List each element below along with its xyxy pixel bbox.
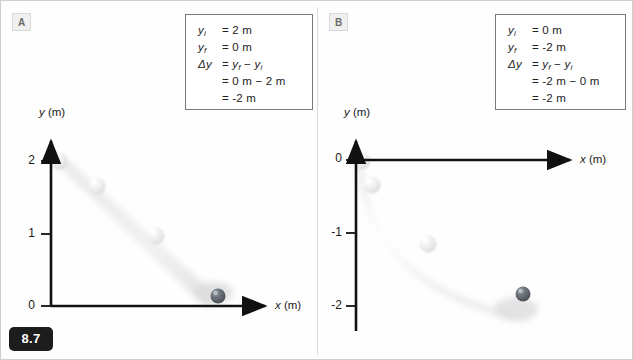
panel-b: B yi= 0 m yf= -2 m Δy= yf − yi = -2 m − … bbox=[318, 1, 633, 360]
y-axis-label-a: y (m) bbox=[39, 106, 65, 118]
plot-area-a: 2 1 0 y (m) x (m) bbox=[1, 1, 317, 360]
figure-container: A yi= 2 m yf= 0 m Δy= yf − yi = 0 m − 2 … bbox=[0, 0, 633, 360]
figure-number-badge: 8.7 bbox=[9, 327, 53, 351]
y-tick-label-0: 0 bbox=[19, 298, 35, 312]
motion-trail-b bbox=[356, 161, 538, 323]
y-tick-label-neg2: -2 bbox=[322, 298, 342, 312]
x-axis-label-b: x (m) bbox=[580, 153, 606, 165]
y-axis-label-b: y (m) bbox=[344, 106, 370, 118]
y-tick-label-neg1: -1 bbox=[322, 225, 342, 239]
y-tick-label-2: 2 bbox=[19, 153, 35, 167]
x-axis-label-a: x (m) bbox=[275, 299, 301, 311]
ball-ghost-3 bbox=[148, 228, 165, 245]
y-tick-label-1: 1 bbox=[19, 226, 35, 240]
ball-ghost-1 bbox=[51, 153, 68, 170]
y-tick-label-0: 0 bbox=[322, 151, 342, 165]
ball-ghost-3 bbox=[420, 236, 437, 253]
panel-a: A yi= 2 m yf= 0 m Δy= yf − yi = 0 m − 2 … bbox=[1, 1, 317, 360]
ball-final-b bbox=[516, 287, 531, 302]
plot-area-b: 0 -1 -2 y (m) x (m) bbox=[318, 1, 633, 360]
ball-ghost-2 bbox=[364, 177, 381, 194]
plot-svg-a bbox=[1, 1, 317, 360]
plot-svg-b bbox=[318, 1, 633, 360]
motion-trail-a bbox=[51, 159, 233, 307]
ball-ghost-2 bbox=[89, 178, 106, 195]
ball-final-a bbox=[211, 289, 226, 304]
